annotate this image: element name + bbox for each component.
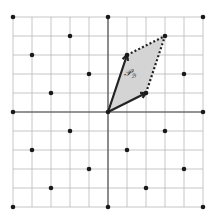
lattice-point <box>125 53 130 58</box>
lattice-point <box>87 72 92 77</box>
lattice-point <box>30 148 35 153</box>
lattice-point <box>201 15 206 20</box>
lattice-diagram: 𝒫ℬ <box>0 0 216 222</box>
lattice-point <box>106 205 111 210</box>
lattice-point <box>87 167 92 172</box>
lattice-point <box>163 129 168 134</box>
lattice-point <box>49 91 54 96</box>
lattice-point <box>144 186 149 191</box>
lattice-point <box>182 72 187 77</box>
lattice-point <box>68 129 73 134</box>
lattice-point <box>11 110 16 115</box>
lattice-point <box>163 34 168 39</box>
lattice-point <box>125 148 130 153</box>
lattice-point <box>201 205 206 210</box>
lattice-point <box>106 15 111 20</box>
lattice-point <box>182 167 187 172</box>
lattice-point <box>106 110 111 115</box>
lattice-point <box>144 91 149 96</box>
lattice-point <box>11 15 16 20</box>
lattice-point <box>68 34 73 39</box>
lattice-point <box>201 110 206 115</box>
lattice-point <box>30 53 35 58</box>
lattice-point <box>49 186 54 191</box>
lattice-point <box>11 205 16 210</box>
